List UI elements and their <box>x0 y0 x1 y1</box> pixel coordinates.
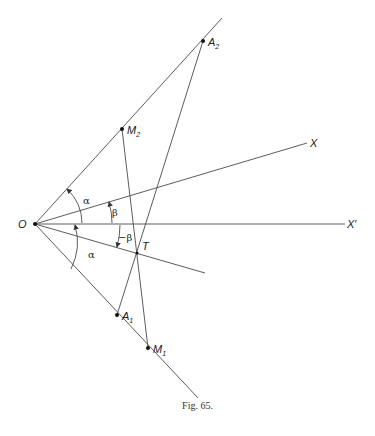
label-t: T <box>142 240 150 252</box>
lower-ray <box>35 224 198 398</box>
alpha-upper-arc <box>67 189 82 223</box>
label-neg-beta: −β <box>118 232 132 243</box>
point-m2 <box>120 127 124 131</box>
label-alpha-upper: α <box>83 195 90 206</box>
point-t <box>136 252 139 255</box>
alpha-lower-arc <box>71 225 77 269</box>
point-a1 <box>115 313 119 317</box>
label-a2: A2 <box>207 36 219 50</box>
point-o <box>33 222 37 226</box>
geometry-figure: O A2 M2 A1 M1 T X X′ α β −β α <box>0 0 375 436</box>
label-a1: A1 <box>121 310 133 324</box>
point-a2 <box>201 39 205 43</box>
label-m1: M1 <box>153 343 166 357</box>
point-m1 <box>146 346 150 350</box>
ray-x <box>35 143 307 224</box>
label-x: X <box>309 137 318 149</box>
label-o: O <box>18 218 27 230</box>
label-alpha-lower: α <box>88 249 95 260</box>
figure-caption: Fig. 65. <box>10 400 375 411</box>
label-m2: M2 <box>127 124 140 138</box>
label-x-prime: X′ <box>346 218 357 230</box>
upper-ray <box>35 18 222 224</box>
label-beta: β <box>112 207 118 218</box>
